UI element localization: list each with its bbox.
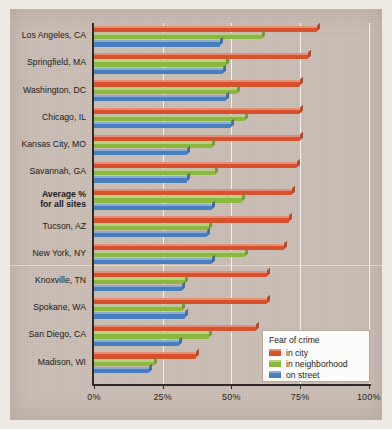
bar-highlight (94, 135, 300, 137)
bar-body (94, 26, 317, 32)
category-label: New York, NY (32, 249, 86, 259)
bar-highlight (94, 231, 207, 233)
category-label: Knoxville, TN (35, 276, 86, 286)
bar-on-street (94, 40, 220, 46)
bar-in-city (94, 244, 284, 250)
bar-end-cap (292, 186, 295, 194)
legend-label: in neighborhood (286, 359, 348, 369)
bar-highlight (94, 53, 308, 55)
bar-highlight (94, 224, 209, 226)
bar-body (94, 271, 267, 277)
bar-body (94, 305, 182, 311)
bar-group: Springfield, MA (92, 53, 372, 80)
x-tick-label: 100% (357, 392, 381, 402)
x-tick (163, 384, 164, 389)
bar-body (94, 196, 242, 202)
bar-highlight (94, 305, 182, 307)
bar-body (94, 162, 297, 168)
x-tick-label: 25% (153, 392, 172, 402)
bar-body (94, 40, 220, 46)
bar-group: New York, NY (92, 244, 372, 271)
bar-end-cap (245, 248, 248, 256)
bar-body (94, 278, 185, 284)
category-label: Average %for all sites (40, 190, 86, 209)
bar-end-cap (267, 295, 270, 303)
bar-highlight (94, 340, 179, 342)
bar-end-cap (182, 302, 185, 310)
bar-body (94, 149, 187, 155)
x-tick (369, 384, 370, 389)
bar-body (94, 60, 226, 66)
bar-highlight (94, 68, 223, 70)
bar-in-neighborhood (94, 278, 185, 284)
bar-in-neighborhood (94, 60, 226, 66)
bar-end-cap (317, 23, 320, 31)
bar-end-cap (209, 329, 212, 337)
bar-end-cap (185, 275, 188, 283)
bar-end-cap (220, 37, 223, 45)
bar-on-street (94, 204, 212, 210)
bar-highlight (94, 142, 212, 144)
bar-end-cap (212, 200, 215, 208)
bar-in-neighborhood (94, 224, 209, 230)
bar-highlight (94, 95, 226, 97)
bar-end-cap (242, 193, 245, 201)
bar-on-street (94, 258, 212, 264)
bar-end-cap (212, 255, 215, 263)
category-label: Springfield, MA (27, 58, 86, 68)
bar-group: Knoxville, TN (92, 271, 372, 298)
category-label: Tucson, AZ (42, 222, 86, 232)
category-label: Washington, DC (23, 86, 86, 96)
category-label: Los Angeles, CA (22, 31, 86, 41)
bar-body (94, 189, 292, 195)
bar-in-city (94, 162, 297, 168)
bar-body (94, 88, 237, 94)
bar-highlight (94, 332, 209, 334)
bar-end-cap (215, 166, 218, 174)
bar-body (94, 224, 209, 230)
bar-group: Kansas City, MO (92, 135, 372, 162)
category-label: Madison, WI (38, 358, 86, 368)
category-label: San Diego, CA (29, 330, 86, 340)
bar-in-neighborhood (94, 196, 242, 202)
bar-group: Tucson, AZ (92, 216, 372, 243)
swatch-highlight (269, 349, 281, 351)
bar-body (94, 68, 223, 74)
bar-highlight (94, 33, 262, 35)
bar-in-neighborhood (94, 142, 212, 148)
bar-in-neighborhood (94, 115, 245, 121)
bar-end-cap (182, 282, 185, 290)
swatch-highlight (269, 360, 281, 362)
bar-end-cap (226, 57, 229, 65)
bar-in-neighborhood (94, 360, 154, 366)
bar-on-street (94, 95, 226, 101)
bar-group: Spokane, WA (92, 298, 372, 325)
bar-highlight (94, 216, 289, 218)
bar-in-neighborhood (94, 169, 215, 175)
bar-body (94, 142, 212, 148)
legend-label: in city (286, 348, 308, 358)
bar-body (94, 251, 245, 257)
bar-in-city (94, 108, 300, 114)
bar-highlight (94, 325, 256, 327)
bar-highlight (94, 169, 215, 171)
bar-highlight (94, 360, 154, 362)
bar-body (94, 367, 149, 373)
bar-end-cap (267, 268, 270, 276)
bar-in-city (94, 216, 289, 222)
bar-highlight (94, 189, 292, 191)
bar-body (94, 95, 226, 101)
bar-in-city (94, 189, 292, 195)
x-tick-label: 0% (87, 392, 100, 402)
bar-group: Los Angeles, CA (92, 26, 372, 53)
bar-body (94, 204, 212, 210)
legend-swatch-city (269, 349, 281, 356)
bar-body (94, 80, 300, 86)
bar-highlight (94, 60, 226, 62)
bar-body (94, 340, 179, 346)
bar-in-neighborhood (94, 251, 245, 257)
chart-root: 0%25%50%75%100% Los Angeles, CASpringfie… (0, 0, 392, 429)
bar-in-city (94, 298, 267, 304)
bar-body (94, 216, 289, 222)
bar-body (94, 352, 196, 358)
